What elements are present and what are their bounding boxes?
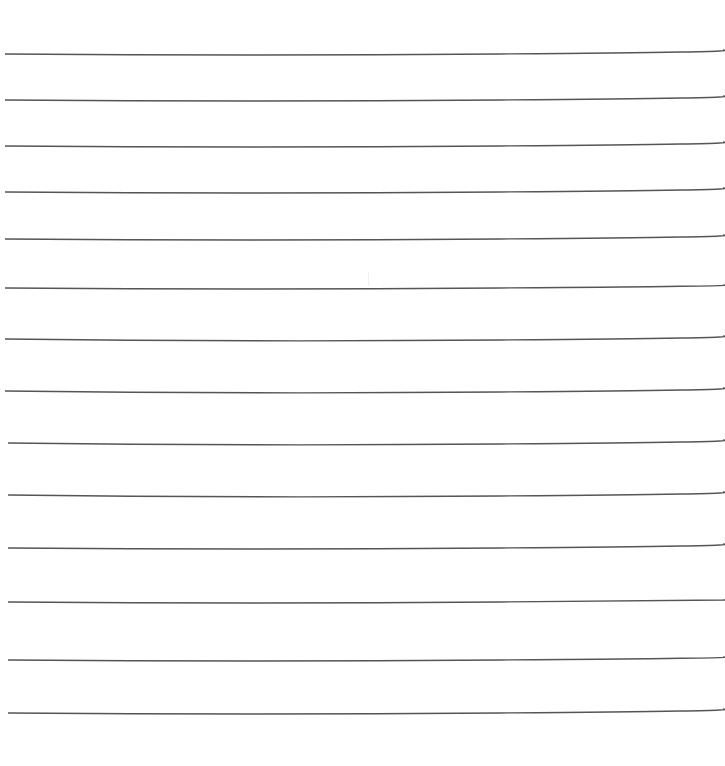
ruled-lines: [0, 0, 725, 766]
ruled-line: [5, 388, 725, 393]
ruled-line: [8, 440, 725, 445]
ruled-line: [8, 709, 725, 714]
ruled-line: [5, 142, 725, 147]
ruled-line: [8, 600, 725, 603]
lined-paper-sheet: [0, 0, 725, 766]
ruled-line: [5, 235, 725, 240]
ruled-line: [8, 544, 725, 549]
ruled-line: [5, 336, 725, 341]
ruled-line: [5, 285, 725, 289]
ruled-line: [8, 657, 725, 661]
faint-mark: [368, 272, 369, 286]
ruled-line: [8, 492, 725, 497]
ruled-line: [5, 188, 725, 193]
ruled-line: [5, 50, 725, 55]
ruled-line: [5, 96, 725, 101]
